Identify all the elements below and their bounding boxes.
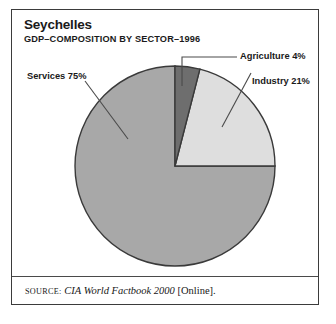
source-note: SOURCE: CIA World Factbook 2000 [Online]… <box>25 285 216 296</box>
source-title: CIA World Factbook 2000 <box>64 285 175 296</box>
source-keyword: SOURCE: <box>25 287 62 296</box>
pie-label-industry: Industry 21% <box>252 76 310 86</box>
source-divider <box>12 276 318 277</box>
pie-label-services: Services 75% <box>27 71 86 81</box>
pie-label-agriculture: Agriculture 4% <box>240 51 306 61</box>
pie-chart-figure: Seychelles GDP–COMPOSITION BY SECTOR–199… <box>0 0 336 324</box>
source-suffix: [Online]. <box>177 285 215 296</box>
